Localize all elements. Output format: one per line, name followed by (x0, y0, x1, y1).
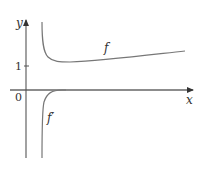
x-axis-label: x (186, 93, 193, 107)
curve-f-label: f (103, 41, 111, 55)
curve-f-prime-label: f′ (46, 111, 54, 125)
graph: y x 0 1 f f′ (0, 0, 202, 170)
origin-label: 0 (15, 91, 22, 104)
y-axis-label: y (15, 16, 23, 30)
curve-f (42, 22, 185, 62)
y-tick-label-1: 1 (15, 60, 22, 73)
